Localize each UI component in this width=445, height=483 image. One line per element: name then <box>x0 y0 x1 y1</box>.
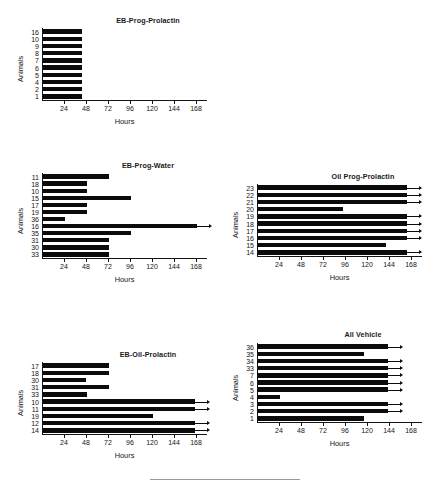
bar <box>43 65 82 69</box>
censor-arrow-line <box>407 202 419 203</box>
x-axis-tick-label: 72 <box>319 427 327 434</box>
bar <box>43 371 109 375</box>
y-axis-category-label: 30 <box>20 244 39 251</box>
y-axis-category-label: 1 <box>235 415 254 422</box>
x-axis-line <box>42 258 207 259</box>
y-axis-category-label: 15 <box>20 194 39 201</box>
y-axis-category-label: 18 <box>20 180 39 187</box>
censor-arrow-head <box>209 224 212 228</box>
y-axis-category-label: 17 <box>20 362 39 369</box>
censor-arrow-head <box>400 381 403 385</box>
censor-arrow-head <box>400 402 403 406</box>
x-axis-tick <box>301 423 302 426</box>
censor-arrow-line <box>407 188 419 189</box>
censor-arrow-line <box>388 368 400 369</box>
x-axis-tick <box>152 101 153 104</box>
plot-area: 24487296120144168HoursAnimals36353433765… <box>257 343 422 422</box>
bar <box>43 224 197 228</box>
bar <box>43 196 131 200</box>
y-axis-category-label: 36 <box>20 216 39 223</box>
censor-arrow-head <box>419 229 422 233</box>
bar <box>43 407 195 411</box>
censor-arrow-line <box>407 195 419 196</box>
x-axis-tick <box>411 423 412 426</box>
y-axis-category-label: 7 <box>20 57 39 64</box>
x-axis-tick <box>411 257 412 260</box>
bar <box>43 181 87 185</box>
censor-arrow-line <box>388 347 400 348</box>
x-axis-tick-label: 168 <box>405 261 417 268</box>
censor-arrow-line <box>407 238 419 239</box>
plot-area: 24487296120144168HoursAnimals16109876542… <box>42 28 207 100</box>
censor-arrow-head <box>207 428 210 432</box>
censor-arrow-line <box>195 409 207 410</box>
bar <box>258 185 407 189</box>
x-axis-tick <box>301 257 302 260</box>
bar <box>258 193 407 197</box>
x-axis-tick <box>174 259 175 262</box>
bar <box>258 359 388 363</box>
x-axis-tick-label: 168 <box>190 263 202 270</box>
x-axis-tick <box>108 259 109 262</box>
y-axis-category-label: 35 <box>235 350 254 357</box>
y-axis-category-label: 1 <box>20 93 39 100</box>
y-axis-category-label: 33 <box>20 391 39 398</box>
y-axis-category-label: 9 <box>20 43 39 50</box>
y-axis-category-label: 30 <box>20 377 39 384</box>
y-axis-category-label: 19 <box>20 413 39 420</box>
y-axis-category-label: 5 <box>20 71 39 78</box>
bar <box>43 363 109 367</box>
censor-arrow-line <box>407 216 419 217</box>
y-axis-category-label: 4 <box>20 79 39 86</box>
x-axis-tick-label: 96 <box>126 263 134 270</box>
y-axis-category-label: 31 <box>20 237 39 244</box>
y-axis-category-label: 3 <box>235 401 254 408</box>
chart-title: Oil Prog-Prolactin <box>332 172 395 181</box>
x-axis-tick <box>389 257 390 260</box>
bar <box>43 44 82 48</box>
bar <box>258 214 407 218</box>
bar <box>43 210 87 214</box>
y-axis-category-label: 8 <box>20 50 39 57</box>
censor-arrow-line <box>388 375 400 376</box>
bar <box>258 387 388 391</box>
chart-title: EB-Prog-Prolactin <box>116 16 180 25</box>
y-axis-category-label: 33 <box>235 365 254 372</box>
x-axis-tick <box>86 259 87 262</box>
plot-area: 24487296120144168HoursAnimals23222120191… <box>257 184 422 256</box>
bar <box>258 380 388 384</box>
censor-arrow-line <box>195 423 207 424</box>
censor-arrow-line <box>195 430 207 431</box>
bar <box>43 94 82 98</box>
censor-arrow-head <box>419 193 422 197</box>
bar <box>43 73 82 77</box>
bar <box>43 238 109 242</box>
y-axis-category-label: 12 <box>20 420 39 427</box>
y-axis-category-label: 16 <box>20 28 39 35</box>
bar <box>258 344 388 348</box>
bar <box>258 373 388 377</box>
y-axis-category-label: 35 <box>20 230 39 237</box>
y-axis-category-label: 19 <box>235 213 254 220</box>
y-axis-category-label: 4 <box>235 393 254 400</box>
bar <box>43 399 195 403</box>
x-axis-tick <box>196 101 197 104</box>
x-axis-tick-label: 72 <box>319 261 327 268</box>
x-axis-tick <box>108 435 109 438</box>
y-axis-category-label: 11 <box>20 405 39 412</box>
bar <box>258 409 388 413</box>
y-axis-category-label: 2 <box>235 408 254 415</box>
y-axis-category-label: 5 <box>235 386 254 393</box>
x-axis-tick-label: 48 <box>297 261 305 268</box>
censor-arrow-line <box>407 231 419 232</box>
bar <box>43 245 109 249</box>
censor-arrow-line <box>407 252 419 253</box>
y-axis-category-label: 6 <box>20 64 39 71</box>
x-axis-tick-label: 24 <box>60 105 68 112</box>
bar <box>43 421 195 425</box>
x-axis-tick <box>345 423 346 426</box>
censor-arrow-line <box>195 402 207 403</box>
chart-title: EB-Prog-Water <box>122 161 174 170</box>
x-axis-tick-label: 96 <box>126 105 134 112</box>
bar <box>258 229 407 233</box>
